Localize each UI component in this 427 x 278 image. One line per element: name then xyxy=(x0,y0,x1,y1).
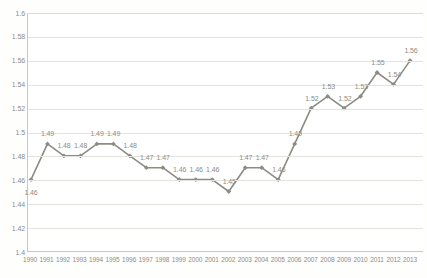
x-axis-tick-label: 2013 xyxy=(403,256,417,264)
y-axis-tick-label: 1.54 xyxy=(3,81,25,88)
y-axis-tick-label: 1.4 xyxy=(3,249,25,256)
x-axis-tick-label: 1999 xyxy=(172,256,186,264)
x-axis-tick-label: 2009 xyxy=(337,256,351,264)
data-point-label: 1.53 xyxy=(355,82,368,89)
data-point-label: 1.46 xyxy=(206,166,219,173)
x-axis-tick-label: 1995 xyxy=(106,256,120,264)
gridline xyxy=(28,204,423,205)
x-axis-tick-label: 1993 xyxy=(73,256,87,264)
y-axis-tick-label: 1.46 xyxy=(3,177,25,184)
data-point-label: 1.48 xyxy=(74,142,87,149)
x-axis-tick-label: 2004 xyxy=(254,256,268,264)
plot-area: 1.461.491.481.481.491.491.481.471.471.46… xyxy=(27,13,423,252)
x-axis-tick-label: 2010 xyxy=(353,256,367,264)
y-axis-tick-label: 1.56 xyxy=(3,57,25,64)
x-axis-tick-label: 1997 xyxy=(139,256,153,264)
x-axis-tick-label: 2005 xyxy=(271,256,285,264)
x-axis-tick-label: 2002 xyxy=(221,256,235,264)
y-axis-tick-label: 1.48 xyxy=(3,153,25,160)
y-axis-tick-label: 1.44 xyxy=(3,201,25,208)
x-axis-tick-label: 1996 xyxy=(122,256,136,264)
y-axis: 1.61.581.561.541.521.51.481.461.441.421.… xyxy=(0,0,25,278)
data-point-label: 1.47 xyxy=(256,154,269,161)
gridline xyxy=(28,133,423,134)
gridline xyxy=(28,156,423,157)
data-point-label: 1.46 xyxy=(272,166,285,173)
x-axis-tick-label: 1990 xyxy=(23,256,37,264)
data-point-marker xyxy=(292,142,297,147)
gridline xyxy=(28,228,423,229)
series-line xyxy=(31,61,410,192)
y-axis-tick-label: 1.6 xyxy=(3,10,25,17)
x-axis-tick-label: 2012 xyxy=(386,256,400,264)
data-point-label: 1.46 xyxy=(24,189,37,196)
x-axis-tick-label: 2011 xyxy=(370,256,384,264)
x-axis-tick-label: 1998 xyxy=(155,256,169,264)
gridline xyxy=(28,109,423,110)
y-axis-tick-label: 1.42 xyxy=(3,225,25,232)
data-point-label: 1.49 xyxy=(289,130,302,137)
data-point-label: 1.49 xyxy=(41,130,54,137)
x-axis-tick-label: 2007 xyxy=(304,256,318,264)
gridline xyxy=(28,37,423,38)
data-point-label: 1.55 xyxy=(371,58,384,65)
data-point-label: 1.47 xyxy=(140,154,153,161)
data-point-label: 1.47 xyxy=(239,154,252,161)
y-axis-tick-label: 1.5 xyxy=(3,129,25,136)
data-point-label: 1.52 xyxy=(305,94,318,101)
data-point-label: 1.53 xyxy=(322,82,335,89)
data-point-label: 1.54 xyxy=(388,70,401,77)
gridline xyxy=(28,13,423,14)
data-point-label: 1.56 xyxy=(404,46,417,53)
data-point-label: 1.48 xyxy=(57,142,70,149)
gridline xyxy=(28,61,423,62)
x-axis: 1990199119921993199419951996199719981999… xyxy=(27,256,423,276)
data-point-label: 1.46 xyxy=(173,166,186,173)
x-axis-tick-label: 2006 xyxy=(287,256,301,264)
x-axis-tick-label: 1991 xyxy=(39,256,53,264)
x-axis-tick-label: 1992 xyxy=(56,256,70,264)
data-point-label: 1.46 xyxy=(190,166,203,173)
x-axis-tick-label: 2008 xyxy=(320,256,334,264)
data-point-label: 1.47 xyxy=(157,154,170,161)
x-axis-tick-label: 2000 xyxy=(188,256,202,264)
x-axis-tick-label: 2001 xyxy=(205,256,219,264)
line-chart: 1.61.581.561.541.521.51.481.461.441.421.… xyxy=(0,0,427,278)
data-point-label: 1.48 xyxy=(124,142,137,149)
data-point-label: 1.45 xyxy=(223,178,236,185)
y-axis-tick-label: 1.58 xyxy=(3,33,25,40)
data-point-label: 1.52 xyxy=(338,94,351,101)
y-axis-tick-label: 1.52 xyxy=(3,105,25,112)
x-axis-tick-label: 2003 xyxy=(238,256,252,264)
data-point-label: 1.49 xyxy=(107,130,120,137)
x-axis-tick-label: 1994 xyxy=(89,256,103,264)
data-point-label: 1.49 xyxy=(90,130,103,137)
